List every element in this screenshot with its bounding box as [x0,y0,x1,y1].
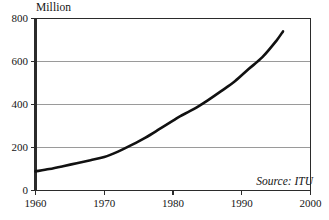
x-tick-label-1960: 1960 [14,198,58,209]
x-tick-label-1990: 1990 [220,198,264,209]
x-tick-label-1980: 1980 [151,198,195,209]
y-tick-label-0: 0 [0,185,28,196]
gridlines-group [36,62,311,148]
chart-figure: Million 0200400600800 196019701980199020… [0,0,329,220]
x-tick-label-1970: 1970 [82,198,126,209]
y-tick-label-800: 800 [0,13,28,24]
y-tick-label-200: 200 [0,142,28,153]
y-tick-label-400: 400 [0,99,28,110]
y-tick-label-600: 600 [0,56,28,67]
data-series-line [36,31,284,171]
source-attribution: Source: ITU [256,175,313,188]
x-tick-label-2000: 2000 [289,198,329,209]
